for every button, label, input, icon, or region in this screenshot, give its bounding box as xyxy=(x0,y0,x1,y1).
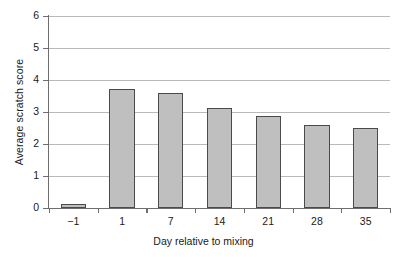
x-tick-mark-1 xyxy=(98,208,99,213)
x-tick-mark-7 xyxy=(390,208,391,213)
x-axis-title: Day relative to mixing xyxy=(0,235,407,247)
x-tick-label-35: 35 xyxy=(346,215,386,227)
x-tick-label-14: 14 xyxy=(200,215,240,227)
y-tick-label-3: 3 xyxy=(22,105,39,117)
x-tick-mark-0 xyxy=(49,208,50,213)
bar-day-21 xyxy=(256,116,281,208)
x-tick-mark-6 xyxy=(341,208,342,213)
bar-day-14 xyxy=(207,108,232,208)
x-tick-label-28: 28 xyxy=(297,215,337,227)
x-tick-mark-4 xyxy=(244,208,245,213)
bar-day-1 xyxy=(109,89,134,208)
y-tick-label-0: 0 xyxy=(22,201,39,213)
y-tick-label-6: 6 xyxy=(22,9,39,21)
x-tick-label-7: 7 xyxy=(151,215,191,227)
bar-day-28 xyxy=(304,125,329,208)
y-tick-label-2: 2 xyxy=(22,137,39,149)
y-tick-label-1: 1 xyxy=(22,169,39,181)
y-tick-label-5: 5 xyxy=(22,41,39,53)
x-tick-label-21: 21 xyxy=(248,215,288,227)
bar-day-7 xyxy=(158,93,183,208)
bar-day-35 xyxy=(353,128,378,208)
x-tick-mark-2 xyxy=(146,208,147,213)
x-tick-mark-3 xyxy=(195,208,196,213)
bar-day--1 xyxy=(61,204,86,208)
x-tick-mark-5 xyxy=(293,208,294,213)
x-tick-label--1: −1 xyxy=(53,215,93,227)
y-tick-label-4: 4 xyxy=(22,73,39,85)
bar-chart: Average scratch score 0123456 −117142128… xyxy=(0,0,407,257)
plot-area xyxy=(49,16,390,208)
x-tick-label-1: 1 xyxy=(102,215,142,227)
